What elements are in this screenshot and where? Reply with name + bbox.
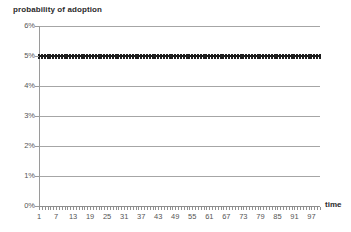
series-marker: [279, 54, 281, 59]
x-axis-tick-mark: [198, 207, 199, 210]
x-axis-tick-mark: [127, 207, 128, 210]
series-marker: [228, 54, 230, 59]
series-marker: [174, 54, 176, 59]
series-marker: [152, 54, 154, 59]
series-marker: [95, 54, 97, 59]
series-marker: [120, 54, 122, 59]
series-marker: [61, 54, 63, 59]
x-axis-tick-mark: [118, 207, 119, 210]
x-axis-tick-mark: [275, 207, 276, 210]
series-marker: [52, 54, 54, 59]
x-axis-tick-mark: [110, 207, 111, 210]
x-axis-tick-mark: [309, 207, 310, 210]
series-marker: [237, 54, 239, 59]
x-axis-tick-mark: [158, 207, 159, 210]
series-marker: [293, 54, 295, 59]
x-axis-tick-mark: [272, 207, 273, 210]
x-axis-tick-mark: [67, 207, 68, 210]
series-marker: [305, 54, 307, 59]
x-axis-tick-mark: [141, 207, 142, 210]
series-marker: [188, 54, 190, 59]
x-axis-tick-label: 97: [301, 212, 321, 221]
series-marker: [66, 54, 68, 59]
x-axis-caption: time: [325, 200, 341, 209]
x-axis-tick-mark: [218, 207, 219, 210]
series-marker: [154, 54, 156, 59]
series-marker: [299, 54, 301, 59]
series-marker: [222, 54, 224, 59]
series-marker: [214, 54, 216, 59]
x-axis-tick-mark: [93, 207, 94, 210]
x-axis-tick-mark: [246, 207, 247, 210]
series-marker: [208, 54, 210, 59]
x-axis-tick-mark: [249, 207, 250, 210]
series-marker: [274, 54, 276, 59]
x-axis-tick-mark: [73, 207, 74, 210]
x-axis-tick-mark: [150, 207, 151, 210]
x-axis-tick-mark: [42, 207, 43, 210]
series-marker: [234, 54, 236, 59]
x-axis-tick-mark: [101, 207, 102, 210]
series-marker: [163, 54, 165, 59]
x-axis-tick-mark: [113, 207, 114, 210]
x-axis-tick-mark: [289, 207, 290, 210]
x-axis-tick-mark: [263, 207, 264, 210]
x-axis-tick-mark: [53, 207, 54, 210]
x-axis-tick-mark: [221, 207, 222, 210]
series-marker: [248, 54, 250, 59]
x-axis-tick-mark: [181, 207, 182, 210]
x-axis-tick-mark: [192, 207, 193, 210]
x-axis-tick-mark: [294, 207, 295, 210]
x-axis-tick-mark: [138, 207, 139, 210]
y-axis-tick-mark: [35, 26, 39, 27]
series-marker: [143, 54, 145, 59]
x-axis-tick-mark: [184, 207, 185, 210]
y-axis-tick-labels: 6%5%4%3%2%1%0%: [8, 0, 35, 232]
series-marker: [225, 54, 227, 59]
series-marker: [55, 54, 57, 59]
series-marker: [81, 54, 83, 59]
series-marker: [186, 54, 188, 59]
series-marker: [231, 54, 233, 59]
series-marker: [49, 54, 51, 59]
x-axis-tick-mark: [252, 207, 253, 210]
series-marker: [64, 54, 66, 59]
x-axis-tick-mark: [121, 207, 122, 210]
x-axis-tick-mark: [62, 207, 63, 210]
series-marker: [137, 54, 139, 59]
series-marker: [205, 54, 207, 59]
y-axis-tick-mark: [35, 86, 39, 87]
series-marker: [146, 54, 148, 59]
series-marker: [41, 54, 43, 59]
x-axis-tick-mark: [286, 207, 287, 210]
x-axis-tick-mark: [235, 207, 236, 210]
x-axis-tick-mark: [229, 207, 230, 210]
y-axis-tick-label: 6%: [9, 21, 35, 30]
series-marker: [308, 54, 310, 59]
series-marker: [75, 54, 77, 59]
series-marker: [180, 54, 182, 59]
x-axis-tick-mark: [175, 207, 176, 210]
series-marker: [302, 54, 304, 59]
y-axis-tick-label: 3%: [9, 111, 35, 120]
x-axis-tick-mark: [320, 207, 321, 210]
x-axis-tick-mark: [226, 207, 227, 210]
series-marker: [78, 54, 80, 59]
series-marker: [265, 54, 267, 59]
series-marker: [288, 54, 290, 59]
series-marker: [171, 54, 173, 59]
series-marker: [100, 54, 102, 59]
x-axis-tick-mark: [189, 207, 190, 210]
x-axis-tick-mark: [283, 207, 284, 210]
series-marker: [123, 54, 125, 59]
series-marker: [98, 54, 100, 59]
x-axis-tick-mark: [56, 207, 57, 210]
series-marker: [220, 54, 222, 59]
x-axis-tick-mark: [178, 207, 179, 210]
x-axis-tick-mark: [84, 207, 85, 210]
series-marker: [126, 54, 128, 59]
x-axis-tick-mark: [277, 207, 278, 210]
series-marker: [271, 54, 273, 59]
series-marker: [316, 54, 318, 59]
series-marker: [166, 54, 168, 59]
